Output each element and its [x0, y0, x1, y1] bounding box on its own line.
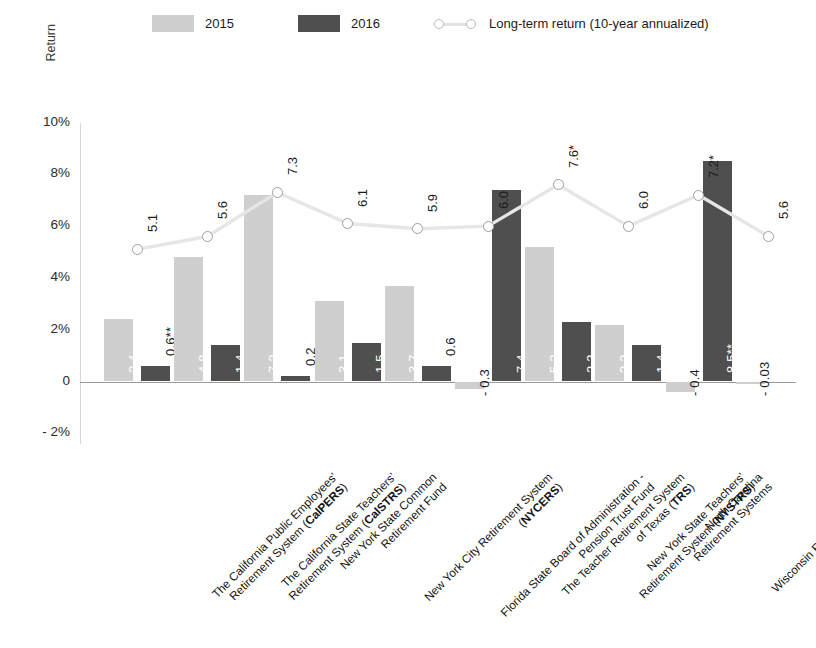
long-term-return-value-label: 7.2*: [706, 155, 721, 178]
bar-value-label: 5.2: [547, 354, 562, 373]
long-term-return-marker: [342, 218, 353, 229]
y-axis-tick-label: 2%: [24, 321, 70, 336]
bar-value-label: 3.1: [336, 354, 351, 373]
long-term-return-marker: [763, 231, 774, 242]
y-axis-tick-label: 8%: [24, 165, 70, 180]
long-term-return-value-label: 5.6: [215, 201, 230, 219]
bar-value-label: 2.4: [126, 354, 141, 373]
long-term-return-value-label: 6.1: [355, 188, 370, 206]
y-axis-tick-label: 4%: [24, 269, 70, 284]
bar: [492, 190, 521, 382]
bar: [281, 376, 310, 381]
bar-value-label: - 0.4: [687, 368, 702, 395]
bar-value-label: 2.2: [617, 354, 632, 373]
long-term-return-value-label: 5.1: [145, 214, 160, 232]
bar-value-label: 4.8: [196, 354, 211, 373]
long-term-return-marker: [553, 179, 564, 190]
long-term-return-value-label: 7.6*: [566, 145, 581, 168]
bar: [422, 366, 451, 382]
long-term-return-value-label: 6.0: [636, 191, 651, 209]
bar-value-label: 0.6: [443, 337, 458, 356]
long-term-return-marker: [132, 244, 143, 255]
y-axis-tick-label: 10%: [24, 114, 70, 129]
y-axis-line: [80, 123, 81, 444]
bar-value-label: 3.7: [406, 354, 421, 373]
bar-value-label: 1.4: [654, 354, 669, 373]
bar: [141, 366, 170, 382]
long-term-return-value-label: 5.9: [425, 194, 440, 212]
long-term-return-marker: [693, 190, 704, 201]
long-term-return-marker: [412, 223, 423, 234]
x-axis-category-label: Wisconsin Retirement System -Core Trust …: [768, 470, 816, 605]
bar-value-label: 7.2: [266, 354, 281, 373]
long-term-return-marker: [483, 221, 494, 232]
y-axis-tick-label: 0: [24, 373, 70, 388]
return-comparison-chart: 2015 2016 Long-term return (10-year annu…: [0, 0, 816, 648]
plot-area: Return10%8%6%4%2%0- 2%2.40.6**4.81.47.20…: [0, 0, 816, 648]
bar-value-label: 8.5**: [724, 343, 739, 372]
y-axis-tick-label: 6%: [24, 217, 70, 232]
long-term-return-value-label: 5.6: [776, 201, 791, 219]
y-axis-title: Return: [44, 24, 58, 62]
bar-value-label: - 0.3: [477, 368, 492, 395]
bar-value-label: - 0.03: [757, 361, 772, 395]
long-term-return-marker: [623, 221, 634, 232]
long-term-return-marker: [272, 187, 283, 198]
long-term-return-value-label: 6.0: [496, 191, 511, 209]
y-axis-tick-label: - 2%: [24, 424, 70, 439]
long-term-return-marker: [202, 231, 213, 242]
long-term-return-value-label: 7.3: [285, 157, 300, 175]
